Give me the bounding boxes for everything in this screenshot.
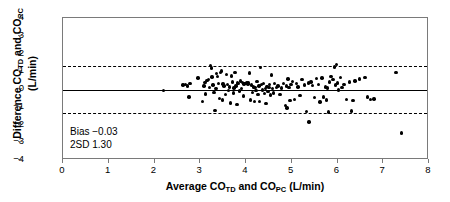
x-tick-mark — [245, 159, 246, 163]
x-tick-label: 2 — [144, 165, 164, 175]
upper-limit-of-agreement-line — [63, 66, 427, 67]
scatter-point — [255, 80, 258, 83]
scatter-point — [285, 106, 288, 109]
scatter-point — [320, 76, 323, 79]
scatter-point — [328, 80, 331, 83]
lower-limit-of-agreement-line — [63, 113, 427, 114]
x-tick-mark — [337, 159, 338, 163]
y-tick-label: 2 — [0, 48, 24, 58]
y-tick-label: −2 — [0, 119, 24, 129]
scatter-point — [249, 98, 252, 101]
scatter-point — [351, 99, 354, 102]
scatter-point — [217, 82, 220, 85]
scatter-point — [307, 120, 310, 123]
x-tick-mark — [291, 159, 292, 163]
scatter-point — [337, 88, 340, 91]
scatter-point — [327, 110, 330, 113]
scatter-point — [296, 85, 299, 88]
scatter-point — [342, 83, 345, 86]
scatter-point — [280, 86, 283, 89]
sd-annotation: 2SD 1.30 — [70, 138, 118, 151]
scatter-point — [213, 109, 216, 112]
x-tick-mark — [108, 159, 109, 163]
scatter-point — [313, 96, 316, 99]
x-tick-label: 0 — [52, 165, 72, 175]
scatter-point — [336, 81, 339, 84]
scatter-point — [224, 93, 227, 96]
scatter-point — [340, 86, 343, 89]
y-tick-label: −4 — [0, 154, 24, 164]
scatter-point — [298, 94, 301, 97]
scatter-point — [225, 73, 228, 76]
scatter-point — [289, 83, 292, 86]
x-tick-mark — [62, 159, 63, 163]
x-tick-mark — [382, 159, 383, 163]
bias-line — [63, 90, 427, 91]
scatter-point — [232, 91, 235, 94]
x-axis-title: Average COTD and COPC (L/min) — [62, 180, 428, 192]
scatter-point — [311, 84, 314, 87]
x-axis-sub-td: TD — [226, 185, 236, 194]
scatter-point — [272, 91, 275, 94]
scatter-point — [331, 78, 334, 81]
scatter-point — [293, 98, 296, 101]
x-tick-label: 4 — [235, 165, 255, 175]
scatter-point — [228, 85, 231, 88]
x-tick-mark — [199, 159, 200, 163]
y-tick-label: 4 — [0, 12, 24, 22]
y-axis-title-line2: (L/min) — [25, 0, 38, 154]
scatter-point — [221, 98, 224, 101]
scatter-point — [258, 100, 261, 103]
scatter-point — [256, 93, 259, 96]
scatter-point — [353, 79, 356, 82]
scatter-point — [227, 89, 230, 92]
scatter-point — [214, 87, 217, 90]
scatter-point — [317, 83, 320, 86]
y-tick-label: −1 — [0, 101, 24, 111]
x-tick-label: 8 — [418, 165, 438, 175]
scatter-point — [394, 71, 397, 74]
scatter-point — [187, 95, 190, 98]
y-tick-label: −3 — [0, 136, 24, 146]
scatter-point — [288, 99, 291, 102]
scatter-point — [162, 89, 165, 92]
scatter-point — [230, 74, 233, 77]
scatter-point — [212, 91, 215, 94]
scatter-point — [345, 98, 348, 101]
scatter-point — [233, 71, 236, 74]
x-tick-mark — [428, 159, 429, 163]
scatter-point — [254, 89, 257, 92]
scatter-point — [201, 100, 204, 103]
scatter-point — [287, 86, 290, 89]
scatter-point — [231, 80, 234, 83]
scatter-point — [268, 83, 271, 86]
scatter-point — [303, 83, 306, 86]
scatter-point — [259, 66, 262, 69]
bias-annotation: Bias −0.03 — [70, 125, 118, 138]
scatter-point — [363, 76, 366, 79]
scatter-point — [229, 101, 232, 104]
x-tick-mark — [154, 159, 155, 163]
scatter-point — [325, 98, 328, 101]
scatter-point — [300, 78, 303, 81]
scatter-point — [188, 82, 191, 85]
y-axis-title: Difference COTD and COPC (L/min) — [11, 0, 38, 154]
x-tick-label: 7 — [372, 165, 392, 175]
scatter-point — [291, 80, 294, 83]
scatter-point — [278, 93, 281, 96]
scatter-point — [242, 94, 245, 97]
bland-altman-figure: Difference COTD and COPC (L/min) 43210−1… — [0, 0, 450, 202]
scatter-point — [286, 77, 289, 80]
scatter-point — [204, 92, 207, 95]
x-tick-label: 5 — [281, 165, 301, 175]
y-tick-label: 1 — [0, 65, 24, 75]
scatter-point — [358, 77, 361, 80]
x-tick-label: 1 — [98, 165, 118, 175]
scatter-point — [202, 84, 205, 87]
scatter-point — [270, 73, 273, 76]
scatter-point — [372, 97, 375, 100]
scatter-point — [220, 69, 223, 72]
scatter-point — [315, 77, 318, 80]
scatter-point — [210, 66, 213, 69]
scatter-point — [350, 109, 353, 112]
